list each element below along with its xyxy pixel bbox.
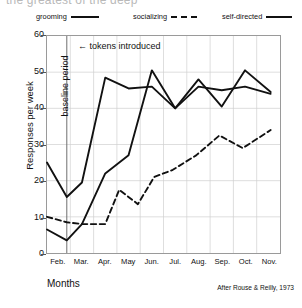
series-line-grooming bbox=[47, 78, 271, 197]
legend-label-socializing: socializing bbox=[133, 12, 167, 22]
legend-swatch-solid2-icon bbox=[266, 16, 292, 18]
y-axis-title: Responses per week bbox=[24, 51, 35, 201]
x-axis-title: Months bbox=[47, 278, 80, 289]
legend-item-self-directed: self-directed bbox=[222, 12, 292, 22]
legend-item-socializing: socializing bbox=[133, 12, 197, 22]
series-line-socializing bbox=[47, 130, 271, 224]
y-tick-mark bbox=[41, 254, 46, 255]
series-line-self-directed bbox=[47, 70, 271, 240]
legend-swatch-dashed-icon bbox=[171, 16, 197, 18]
left-arrow-icon: ← bbox=[78, 41, 87, 51]
clipped-headline: the greatest of the deep bbox=[6, 0, 296, 7]
legend-label-self-directed: self-directed bbox=[222, 12, 262, 22]
chart-legend: grooming socializing self-directed bbox=[0, 12, 302, 26]
chart-figure: the greatest of the deep grooming social… bbox=[0, 0, 302, 308]
tokens-introduced-label: ← tokens introduced bbox=[78, 41, 161, 51]
tokens-text: tokens introduced bbox=[90, 41, 161, 51]
plot-area: baseline period ← tokens introduced bbox=[46, 35, 281, 254]
legend-label-grooming: grooming bbox=[36, 12, 67, 22]
legend-swatch-solid-icon bbox=[71, 16, 99, 18]
legend-item-grooming: grooming bbox=[36, 12, 99, 22]
chart-credit: After Rouse & Reilly, 1973 bbox=[217, 284, 294, 291]
plot-svg bbox=[47, 36, 280, 253]
x-tick-label: Nov. bbox=[249, 257, 289, 266]
baseline-period-label: baseline period bbox=[60, 40, 70, 132]
